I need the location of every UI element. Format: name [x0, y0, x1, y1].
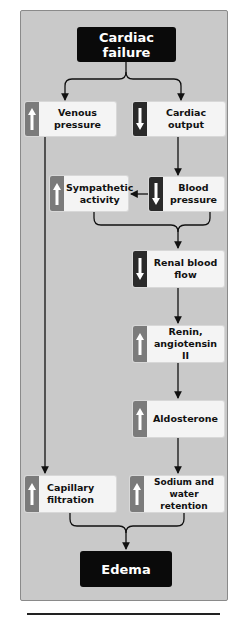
arrow-down-icon: [133, 102, 147, 136]
cardiac-failure-label: Cardiac failure: [97, 30, 157, 60]
bottom-rule: [27, 613, 220, 615]
blood-pressure-node: Blood pressure: [149, 177, 224, 211]
sympathetic-activity-label: Sympathetic activity: [64, 176, 135, 211]
cardiac-output-node: Cardiac output: [133, 102, 225, 136]
sympathetic-activity-node: Sympathetic activity: [50, 176, 128, 211]
renal-blood-flow-label: Renal blood flow: [147, 251, 224, 287]
capillary-filtration-node: Capillary filtration: [25, 476, 116, 512]
arrow-down-icon: [149, 177, 163, 211]
sodium-water-retention-node: Sodium and water retention: [130, 476, 224, 512]
renin-angiotensin-label: Renin, angiotensin II: [147, 326, 224, 362]
connector-arrows: [0, 0, 239, 618]
cardiac-output-label: Cardiac output: [147, 102, 225, 136]
blood-pressure-label: Blood pressure: [163, 177, 224, 211]
edema-box: Edema: [80, 551, 172, 587]
venous-pressure-node: Venous pressure: [25, 102, 116, 136]
capillary-filtration-label: Capillary filtration: [39, 476, 116, 512]
arrow-up-icon: [50, 176, 64, 211]
arrow-up-icon: [133, 326, 147, 362]
arrow-up-icon: [25, 476, 39, 512]
edema-label: Edema: [101, 562, 150, 577]
renal-blood-flow-node: Renal blood flow: [133, 251, 224, 287]
arrow-up-icon: [130, 476, 144, 512]
aldosterone-node: Aldosterone: [133, 401, 224, 437]
aldosterone-label: Aldosterone: [147, 401, 224, 437]
renin-angiotensin-node: Renin, angiotensin II: [133, 326, 224, 362]
arrow-down-icon: [133, 251, 147, 287]
arrow-up-icon: [133, 401, 147, 437]
venous-pressure-label: Venous pressure: [39, 102, 116, 136]
sodium-water-retention-label: Sodium and water retention: [144, 476, 224, 512]
cardiac-failure-box: Cardiac failure: [77, 27, 176, 62]
arrow-up-icon: [25, 102, 39, 136]
